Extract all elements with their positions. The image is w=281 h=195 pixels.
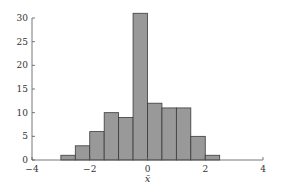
histogram-bar bbox=[176, 108, 190, 160]
x-axis-label: x̄ bbox=[145, 173, 151, 184]
histogram-bar bbox=[191, 136, 205, 160]
histogram-bar bbox=[205, 155, 219, 160]
y-tick-label: 30 bbox=[17, 13, 29, 23]
histogram-bar bbox=[162, 108, 176, 160]
x-tick-label: −4 bbox=[25, 164, 39, 174]
histogram-bar bbox=[133, 13, 147, 160]
histogram-bars bbox=[61, 13, 220, 160]
x-tick-label: 2 bbox=[202, 164, 208, 174]
x-tick-label: −2 bbox=[83, 164, 96, 174]
histogram-bar bbox=[119, 117, 133, 160]
y-tick-label: 20 bbox=[17, 60, 29, 70]
histogram-bar bbox=[104, 113, 118, 160]
histogram-bar bbox=[61, 155, 75, 160]
histogram-bar bbox=[75, 146, 89, 160]
x-tick-label: 4 bbox=[260, 164, 266, 174]
histogram-chart: 051015202530 −4−2024 x̄ bbox=[0, 0, 281, 195]
histogram-bar bbox=[90, 132, 104, 160]
y-tick-label: 5 bbox=[22, 131, 28, 141]
y-tick-label: 15 bbox=[17, 84, 29, 94]
histogram-bar bbox=[148, 103, 162, 160]
y-tick-label: 25 bbox=[17, 37, 29, 47]
y-tick-label: 10 bbox=[17, 108, 29, 118]
